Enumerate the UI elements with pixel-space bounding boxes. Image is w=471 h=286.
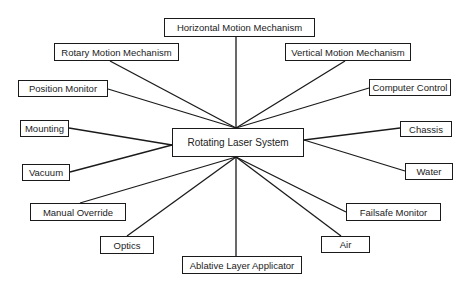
connector-water <box>304 140 405 171</box>
node-chassis: Chassis <box>400 121 452 137</box>
node-label: Computer Control <box>373 82 448 93</box>
node-label: Horizontal Motion Mechanism <box>177 22 302 33</box>
node-label: Failsafe Monitor <box>360 207 428 218</box>
node-optics: Optics <box>100 236 154 254</box>
node-ablative-layer-applicator: Ablative Layer Applicator <box>182 256 302 274</box>
node-horizontal-motion-mechanism: Horizontal Motion Mechanism <box>164 18 315 37</box>
connector-manual-override <box>80 157 236 203</box>
node-rotary-motion-mechanism: Rotary Motion Mechanism <box>54 43 179 61</box>
connector-rotary-motion-mechanism <box>110 61 236 128</box>
node-label: Optics <box>114 240 141 251</box>
center-node-label: Rotating Laser System <box>187 137 288 148</box>
center-node-rotating-laser-system: Rotating Laser System <box>172 128 304 157</box>
connector-position-monitor <box>108 89 236 128</box>
node-label: Mounting <box>25 123 64 134</box>
node-label: Chassis <box>409 124 443 135</box>
node-computer-control: Computer Control <box>369 79 451 96</box>
node-failsafe-monitor: Failsafe Monitor <box>346 203 441 221</box>
node-label: Rotary Motion Mechanism <box>61 47 171 58</box>
connector-computer-control <box>236 88 369 128</box>
node-label: Manual Override <box>43 207 113 218</box>
connector-failsafe-monitor <box>236 157 346 212</box>
node-vacuum: Vacuum <box>22 164 70 181</box>
node-label: Water <box>417 166 442 177</box>
node-label: Vertical Motion Mechanism <box>291 47 405 58</box>
node-label: Ablative Layer Applicator <box>190 260 295 271</box>
node-water: Water <box>405 163 453 180</box>
node-mounting: Mounting <box>20 120 69 137</box>
node-manual-override: Manual Override <box>30 203 126 221</box>
node-air: Air <box>321 236 370 253</box>
connector-optics <box>127 157 236 236</box>
node-label: Air <box>340 239 352 250</box>
connector-air <box>236 157 341 236</box>
connector-chassis <box>304 128 400 140</box>
node-label: Vacuum <box>29 167 63 178</box>
node-label: Position Monitor <box>29 83 97 94</box>
connector-vertical-motion-mechanism <box>236 61 345 128</box>
node-position-monitor: Position Monitor <box>18 80 108 97</box>
node-vertical-motion-mechanism: Vertical Motion Mechanism <box>285 43 411 61</box>
diagram-canvas: Rotating Laser System Horizontal Motion … <box>0 0 471 286</box>
connector-vacuum <box>70 145 172 172</box>
connector-mounting <box>69 128 172 145</box>
